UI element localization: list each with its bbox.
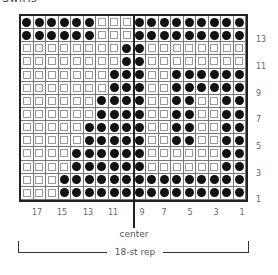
stitch-filled: [221, 82, 234, 95]
stitch-filled: [59, 187, 72, 200]
stitch-empty: [46, 42, 59, 55]
row-label: 13: [256, 35, 266, 44]
stitch-empty: [209, 134, 222, 147]
stitch-empty: [209, 121, 222, 134]
stitch-filled: [96, 161, 109, 174]
stitch-empty: [21, 147, 34, 160]
stitch-filled: [234, 95, 247, 108]
stitch-empty: [21, 161, 34, 174]
stitch-filled: [71, 29, 84, 42]
stitch-filled: [121, 134, 134, 147]
stitch-filled: [121, 161, 134, 174]
stitch-filled: [171, 16, 184, 29]
stitch-empty: [84, 42, 97, 55]
stitch-filled: [184, 16, 197, 29]
stitch-filled: [34, 16, 47, 29]
stitch-empty: [159, 82, 172, 95]
stitch-empty: [46, 82, 59, 95]
stitch-filled: [146, 16, 159, 29]
column-label: 1: [235, 208, 249, 217]
stitch-filled: [84, 134, 97, 147]
stitch-filled: [134, 187, 147, 200]
stitch-filled: [221, 29, 234, 42]
stitch-filled: [96, 134, 109, 147]
stitch-empty: [146, 42, 159, 55]
stitch-filled: [96, 95, 109, 108]
stitch-filled: [171, 108, 184, 121]
center-line: [133, 14, 135, 228]
stitch-filled: [134, 174, 147, 187]
stitch-empty: [159, 108, 172, 121]
stitch-filled: [221, 147, 234, 160]
stitch-empty: [96, 55, 109, 68]
stitch-empty: [146, 82, 159, 95]
column-label: 13: [81, 208, 95, 217]
stitch-filled: [121, 55, 134, 68]
stitch-filled: [184, 108, 197, 121]
stitch-filled: [96, 147, 109, 160]
stitch-empty: [209, 147, 222, 160]
stitch-filled: [71, 161, 84, 174]
stitch-empty: [159, 161, 172, 174]
stitch-filled: [184, 82, 197, 95]
stitch-filled: [46, 16, 59, 29]
stitch-filled: [196, 187, 209, 200]
stitch-filled: [46, 29, 59, 42]
stitch-empty: [46, 95, 59, 108]
stitch-filled: [234, 29, 247, 42]
stitch-filled: [221, 108, 234, 121]
stitch-empty: [84, 55, 97, 68]
stitch-filled: [134, 121, 147, 134]
stitch-filled: [34, 29, 47, 42]
column-label: 3: [209, 208, 223, 217]
stitch-filled: [109, 174, 122, 187]
stitch-empty: [59, 82, 72, 95]
stitch-empty: [34, 42, 47, 55]
stitch-filled: [234, 108, 247, 121]
stitch-filled: [146, 174, 159, 187]
stitch-filled: [134, 16, 147, 29]
stitch-empty: [184, 42, 197, 55]
stitch-filled: [121, 187, 134, 200]
stitch-empty: [34, 174, 47, 187]
stitch-filled: [121, 108, 134, 121]
stitch-filled: [59, 174, 72, 187]
stitch-filled: [59, 29, 72, 42]
row-label: 9: [256, 89, 261, 98]
column-label: 7: [157, 208, 171, 217]
stitch-empty: [34, 108, 47, 121]
stitch-filled: [84, 174, 97, 187]
stitch-empty: [59, 108, 72, 121]
stitch-filled: [234, 174, 247, 187]
stitch-filled: [134, 108, 147, 121]
stitch-empty: [234, 42, 247, 55]
stitch-empty: [209, 161, 222, 174]
stitch-filled: [96, 108, 109, 121]
stitch-empty: [146, 121, 159, 134]
stitch-filled: [146, 187, 159, 200]
stitch-filled: [134, 42, 147, 55]
row-label: 1: [256, 195, 261, 204]
stitch-empty: [46, 121, 59, 134]
stitch-empty: [59, 42, 72, 55]
stitch-filled: [184, 95, 197, 108]
stitch-filled: [234, 121, 247, 134]
stitch-filled: [221, 16, 234, 29]
row-label: 11: [256, 62, 266, 71]
stitch-filled: [171, 69, 184, 82]
stitch-empty: [21, 55, 34, 68]
stitch-empty: [159, 134, 172, 147]
stitch-filled: [96, 121, 109, 134]
column-label: 5: [183, 208, 197, 217]
stitch-filled: [234, 187, 247, 200]
stitch-empty: [21, 121, 34, 134]
stitch-filled: [84, 187, 97, 200]
stitch-filled: [171, 174, 184, 187]
stitch-empty: [59, 121, 72, 134]
stitch-filled: [109, 82, 122, 95]
stitch-filled: [221, 134, 234, 147]
stitch-empty: [196, 42, 209, 55]
stitch-empty: [59, 134, 72, 147]
stitch-empty: [146, 134, 159, 147]
stitch-empty: [109, 55, 122, 68]
